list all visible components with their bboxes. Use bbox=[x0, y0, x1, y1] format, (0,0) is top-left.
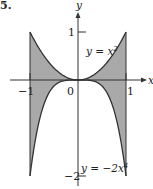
x-tick-label-1: 1 bbox=[127, 85, 134, 98]
figure-number: 5. bbox=[0, 0, 11, 12]
x-axis-label: x bbox=[148, 74, 153, 86]
x-tick-label-0: 0 bbox=[67, 85, 74, 98]
chart-canvas: 5. y x −1 0 1 1 −2 y = x2 y = −2x4 bbox=[0, 0, 153, 189]
y-axis-arrow-icon bbox=[76, 12, 81, 18]
x-axis-arrow-icon bbox=[141, 78, 147, 83]
y-axis-label: y bbox=[75, 0, 83, 11]
x-tick-label-neg1: −1 bbox=[18, 85, 34, 98]
annotation-lower-curve: y = −2x4 bbox=[80, 162, 128, 174]
y-tick-label-neg2: −2 bbox=[64, 170, 80, 183]
y-tick-label-1: 1 bbox=[68, 26, 75, 39]
figure: 5. y x −1 0 1 1 −2 y = x2 y = −2x4 bbox=[0, 0, 153, 189]
